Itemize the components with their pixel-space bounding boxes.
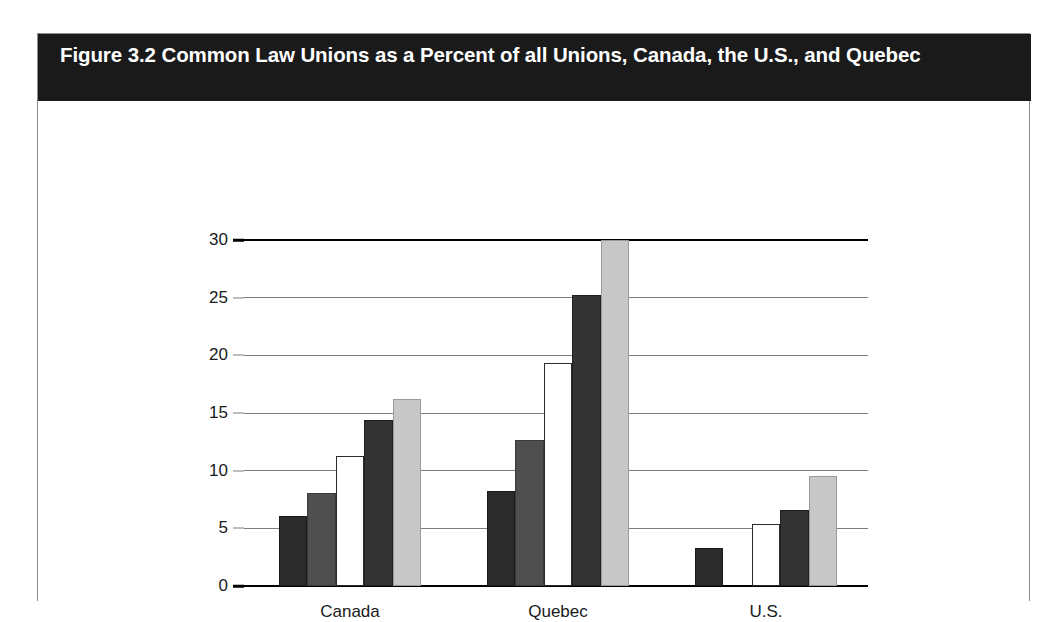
bar-us-series-4 <box>780 510 809 586</box>
bars-group <box>244 240 868 586</box>
ytick-mark-10 <box>233 470 244 471</box>
ytick-label-15: 15 <box>209 403 228 423</box>
bar-quebec-series-5 <box>601 240 630 586</box>
ytick-label-0: 0 <box>219 576 228 596</box>
bar-quebec-series-2 <box>515 440 544 586</box>
bar-us-series-1 <box>695 548 724 586</box>
ytick-label-5: 5 <box>219 518 228 538</box>
category-label-quebec: Quebec <box>528 602 588 622</box>
ytick-mark-0 <box>233 585 244 588</box>
figure-title: Figure 3.2 Common Law Unions as a Percen… <box>60 41 1000 68</box>
ytick-label-20: 20 <box>209 345 228 365</box>
bar-canada-series-5 <box>393 399 422 586</box>
bar-quebec-series-3 <box>544 363 573 586</box>
bar-us-series-5 <box>809 476 838 586</box>
category-label-us: U.S. <box>749 602 782 622</box>
ytick-mark-5 <box>233 528 244 529</box>
ytick-mark-20 <box>233 355 244 356</box>
figure-title-bar: Figure 3.2 Common Law Unions as a Percen… <box>38 34 1031 101</box>
ytick-mark-30 <box>233 239 244 242</box>
bar-canada-series-3 <box>336 456 365 586</box>
category-label-canada: Canada <box>320 602 380 622</box>
source-note <box>60 594 1010 602</box>
bar-canada-series-4 <box>364 420 393 586</box>
ytick-label-25: 25 <box>209 288 228 308</box>
bar-quebec-series-1 <box>487 491 516 586</box>
ytick-mark-25 <box>233 297 244 298</box>
ytick-label-10: 10 <box>209 461 228 481</box>
chart-plot-wrapper: 051015202530 CanadaQuebecU.S. <box>38 101 1031 600</box>
bar-canada-series-2 <box>307 493 336 586</box>
chart-plot-area: 051015202530 CanadaQuebecU.S. <box>244 240 868 586</box>
figure-container: Figure 3.2 Common Law Unions as a Percen… <box>37 33 1030 601</box>
bar-quebec-series-4 <box>572 295 601 586</box>
ytick-label-30: 30 <box>209 230 228 250</box>
bar-us-series-3 <box>752 524 781 586</box>
bar-canada-series-1 <box>279 516 308 586</box>
ytick-mark-15 <box>233 413 244 414</box>
